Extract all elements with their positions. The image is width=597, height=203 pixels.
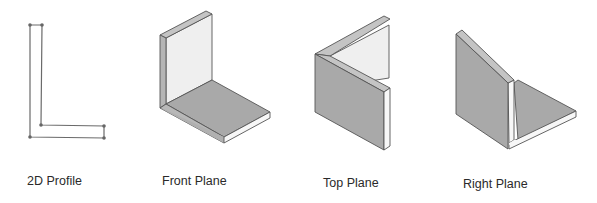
label-top-plane: Top Plane bbox=[323, 176, 379, 190]
2d-profile-sketch bbox=[28, 23, 106, 140]
figures-canvas bbox=[0, 0, 597, 203]
label-2d-profile: 2D Profile bbox=[27, 174, 82, 188]
label-front-plane: Front Plane bbox=[162, 174, 227, 188]
right-plane-extrusion bbox=[456, 30, 576, 149]
vertex-points bbox=[28, 23, 106, 140]
front-plane-extrusion bbox=[160, 11, 270, 143]
label-right-plane: Right Plane bbox=[463, 177, 528, 191]
top-plane-extrusion bbox=[315, 16, 390, 150]
